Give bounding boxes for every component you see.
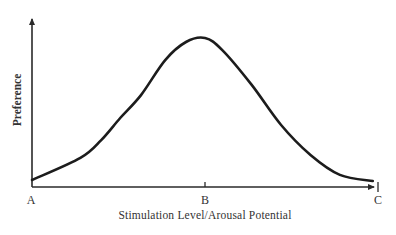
x-tick-label-c: C <box>374 193 382 207</box>
x-tick-label-a: A <box>27 193 36 207</box>
preference-curve <box>32 38 373 181</box>
x-tick-label-b: B <box>201 193 209 207</box>
inverted-u-chart: ABC Stimulation Level/Arousal Potential … <box>0 0 396 235</box>
y-axis-label: Preference <box>11 74 23 127</box>
x-axis-label: Stimulation Level/Arousal Potential <box>118 209 291 221</box>
x-tick-labels: ABC <box>27 193 382 207</box>
